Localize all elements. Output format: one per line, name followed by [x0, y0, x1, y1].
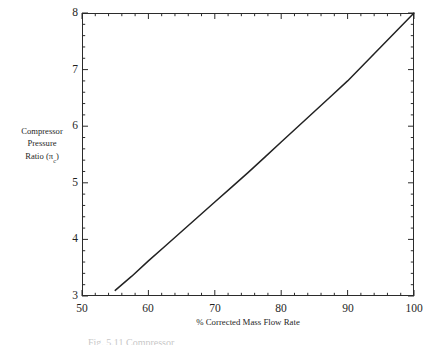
x-tick-label-70: 70 — [200, 303, 230, 315]
y-axis-title-ratio-text: Ratio ( — [25, 151, 49, 161]
y-axis-title-line-1: Compressor — [6, 125, 78, 137]
y-axis-title-close-paren: ) — [56, 151, 59, 161]
y-tick-label-7: 7 — [56, 64, 78, 76]
plot-frame — [82, 13, 414, 296]
figure-caption-clipped: Fig. 5.11 Compressor — [88, 337, 388, 345]
figure-container: 3 4 5 6 7 8 50 60 70 80 90 100 Compresso… — [0, 0, 431, 345]
y-axis-title-line-3: Ratio (πc) — [6, 150, 78, 165]
x-tick-label-60: 60 — [133, 303, 163, 315]
y-tick-label-3: 3 — [56, 290, 78, 302]
y-axis-title-line-2: Pressure — [6, 137, 78, 149]
pi-subscript-c: c — [53, 157, 56, 164]
x-tick-label-100: 100 — [399, 303, 429, 315]
x-tick-label-50: 50 — [67, 303, 97, 315]
x-tick-label-90: 90 — [333, 303, 363, 315]
x-axis-title: % Corrected Mass Flow Rate — [82, 317, 414, 327]
y-tick-label-5: 5 — [56, 177, 78, 189]
y-tick-label-4: 4 — [56, 233, 78, 245]
y-tick-label-8: 8 — [56, 7, 78, 19]
y-axis-title: Compressor Pressure Ratio (πc) — [6, 125, 78, 165]
x-tick-label-80: 80 — [266, 303, 296, 315]
